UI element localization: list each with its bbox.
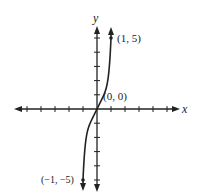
- right-arrow-icon: [172, 106, 180, 112]
- curve-up-arrow-icon: [108, 27, 114, 35]
- point-neg1-neg5: [81, 178, 85, 182]
- graph: y x (1, 5) (0, 0) (−1, −5): [0, 0, 201, 195]
- up-arrow-icon: [94, 26, 100, 34]
- down-arrow-icon: [94, 184, 100, 192]
- curve-down-arrow-icon: [80, 183, 86, 191]
- point-label-origin: (0, 0): [103, 90, 127, 103]
- left-arrow-icon: [14, 106, 22, 112]
- point-label-1-5: (1, 5): [117, 32, 141, 45]
- point-label-neg1-neg5: (−1, −5): [41, 174, 74, 186]
- point-1-5: [109, 36, 113, 40]
- y-axis-label: y: [92, 11, 99, 25]
- x-axis-label: x: [181, 102, 188, 116]
